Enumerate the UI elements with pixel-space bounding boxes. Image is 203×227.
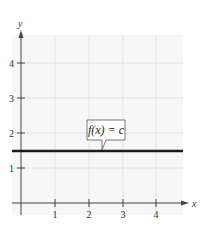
function-label: f(x) = c <box>88 123 125 137</box>
y-axis-label: y <box>17 18 23 29</box>
y-tick-label-3: 3 <box>9 93 14 104</box>
x-axis-label: x <box>191 198 197 209</box>
x-tick-label-1: 1 <box>53 209 58 220</box>
y-tick-label-2: 2 <box>9 128 14 139</box>
x-tick-label-3: 3 <box>121 209 126 220</box>
x-tick-label-2: 2 <box>87 209 92 220</box>
chart: y x 1 2 3 4 4 3 2 1 f(x) = c <box>0 0 203 227</box>
y-tick-label-1: 1 <box>9 163 14 174</box>
y-tick-label-4: 4 <box>9 58 14 69</box>
x-tick-label-4: 4 <box>154 209 159 220</box>
y-axis-arrow-icon <box>19 30 24 38</box>
x-axis-arrow-icon <box>181 201 189 206</box>
